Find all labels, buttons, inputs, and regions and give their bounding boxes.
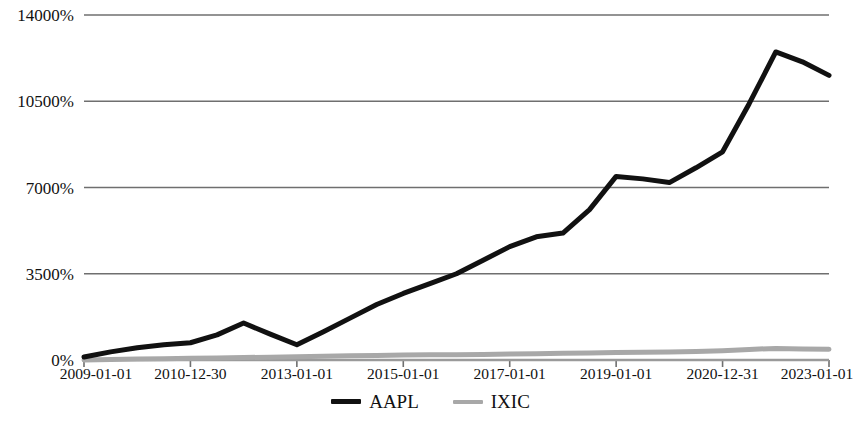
- x-axis-tick-label: 2015-01-01: [367, 366, 439, 382]
- x-axis-tick-label: 2013-01-01: [261, 366, 333, 382]
- chart-container: 0%3500%7000%10500%14000% 2009-01-012010-…: [0, 0, 861, 421]
- y-axis-tick-label: 3500%: [0, 265, 74, 282]
- legend-line-swatch-icon: [453, 400, 483, 404]
- legend-item-aapl[interactable]: AAPL: [331, 392, 419, 411]
- chart-legend: AAPLIXIC: [0, 392, 861, 411]
- legend-line-swatch-icon: [331, 399, 361, 404]
- legend-item-ixic[interactable]: IXIC: [453, 392, 530, 411]
- y-axis-tick-label: 7000%: [0, 179, 74, 196]
- x-axis-tick-label: 2019-01-01: [580, 366, 652, 382]
- x-axis-tick-label: 2009-01-01: [60, 366, 132, 382]
- gridlines: [84, 15, 829, 274]
- x-axis-tick-label: 2020-12-31: [686, 366, 758, 382]
- y-axis-tick-label: 14000%: [0, 7, 74, 24]
- y-axis-tick-label: 10500%: [0, 93, 74, 110]
- x-axis-tick-label: 2010-12-30: [154, 366, 226, 382]
- chart-plot-area: [0, 0, 861, 421]
- x-axis-tick-label: 2023-01-01: [781, 366, 853, 382]
- legend-label: IXIC: [491, 392, 530, 411]
- x-axis-tick-label: 2017-01-01: [474, 366, 546, 382]
- legend-label: AAPL: [369, 392, 419, 411]
- series-line-ixic: [84, 348, 829, 360]
- data-series-lines: [84, 52, 829, 360]
- series-line-aapl: [84, 52, 829, 357]
